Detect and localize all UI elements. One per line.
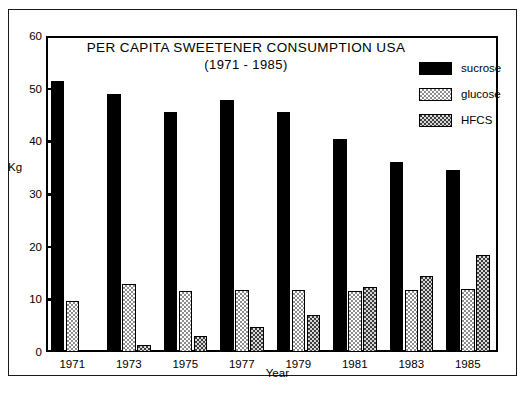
- bar-sucrose-1973: [107, 94, 121, 352]
- bar-hfcs-1985: [476, 255, 490, 352]
- legend-swatch-sucrose-icon: [419, 62, 452, 75]
- legend-item-sucrose: sucrose: [419, 58, 501, 78]
- bar-hfcs-1977: [250, 327, 264, 352]
- bar-glucose-1985: [461, 289, 475, 352]
- y-tick-label-40: 40: [8, 136, 42, 146]
- bar-sucrose-1983: [390, 162, 404, 352]
- x-tick-label-1971: 1971: [42, 358, 102, 370]
- y-tick-label-30: 30: [8, 189, 42, 199]
- legend-label-glucose: glucose: [461, 88, 501, 100]
- y-tick-mark-40: [46, 140, 53, 143]
- legend-swatch-glucose-icon: [419, 88, 452, 101]
- y-tick-label-10: 10: [8, 294, 42, 304]
- bar-glucose-1981: [348, 291, 362, 352]
- bar-glucose-1977: [235, 290, 249, 352]
- y-tick-label-20: 20: [8, 242, 42, 252]
- x-tick-label-1981: 1981: [325, 358, 385, 370]
- legend-item-hfcs: HFCS: [419, 110, 501, 130]
- y-tick-mark-10: [46, 298, 53, 301]
- x-tick-label-1983: 1983: [381, 358, 441, 370]
- bar-sucrose-1981: [333, 139, 347, 352]
- x-tick-label-1975: 1975: [155, 358, 215, 370]
- bar-sucrose-1985: [446, 170, 460, 352]
- bar-sucrose-1975: [164, 112, 178, 352]
- chart-legend: sucroseglucoseHFCS: [419, 58, 501, 136]
- legend-label-hfcs: HFCS: [461, 114, 492, 126]
- bar-sucrose-1977: [220, 100, 234, 352]
- bar-hfcs-1979: [307, 315, 321, 352]
- y-tick-label-0: 0: [8, 347, 42, 357]
- y-axis-title: Kg: [8, 161, 38, 173]
- x-tick-label-1985: 1985: [438, 358, 498, 370]
- legend-label-sucrose: sucrose: [461, 62, 501, 74]
- x-axis-title: Year: [266, 367, 289, 379]
- bar-hfcs-1981: [363, 287, 377, 352]
- bar-glucose-1971: [66, 301, 80, 352]
- bar-glucose-1983: [405, 290, 419, 352]
- bar-sucrose-1979: [277, 112, 291, 352]
- bar-hfcs-1973: [137, 345, 151, 352]
- y-tick-label-60: 60: [8, 31, 42, 41]
- figure-caption: [10, 385, 510, 394]
- y-tick-mark-50: [46, 88, 53, 91]
- bar-glucose-1973: [122, 284, 136, 352]
- figure-container: PER CAPITA SWEETENER CONSUMPTION USA (19…: [0, 0, 529, 395]
- bar-glucose-1979: [292, 290, 306, 352]
- x-tick-label-1973: 1973: [99, 358, 159, 370]
- bar-glucose-1975: [179, 291, 193, 352]
- y-tick-mark-30: [46, 193, 53, 196]
- legend-item-glucose: glucose: [419, 84, 501, 104]
- legend-swatch-hfcs-icon: [419, 114, 452, 127]
- y-tick-label-50: 50: [8, 84, 42, 94]
- bar-hfcs-1983: [420, 276, 434, 352]
- bar-sucrose-1971: [51, 81, 65, 352]
- x-tick-label-1977: 1977: [212, 358, 272, 370]
- bar-hfcs-1975: [194, 336, 208, 352]
- y-axis-tick-labels: 0102030405060: [4, 0, 42, 395]
- y-tick-mark-20: [46, 246, 53, 249]
